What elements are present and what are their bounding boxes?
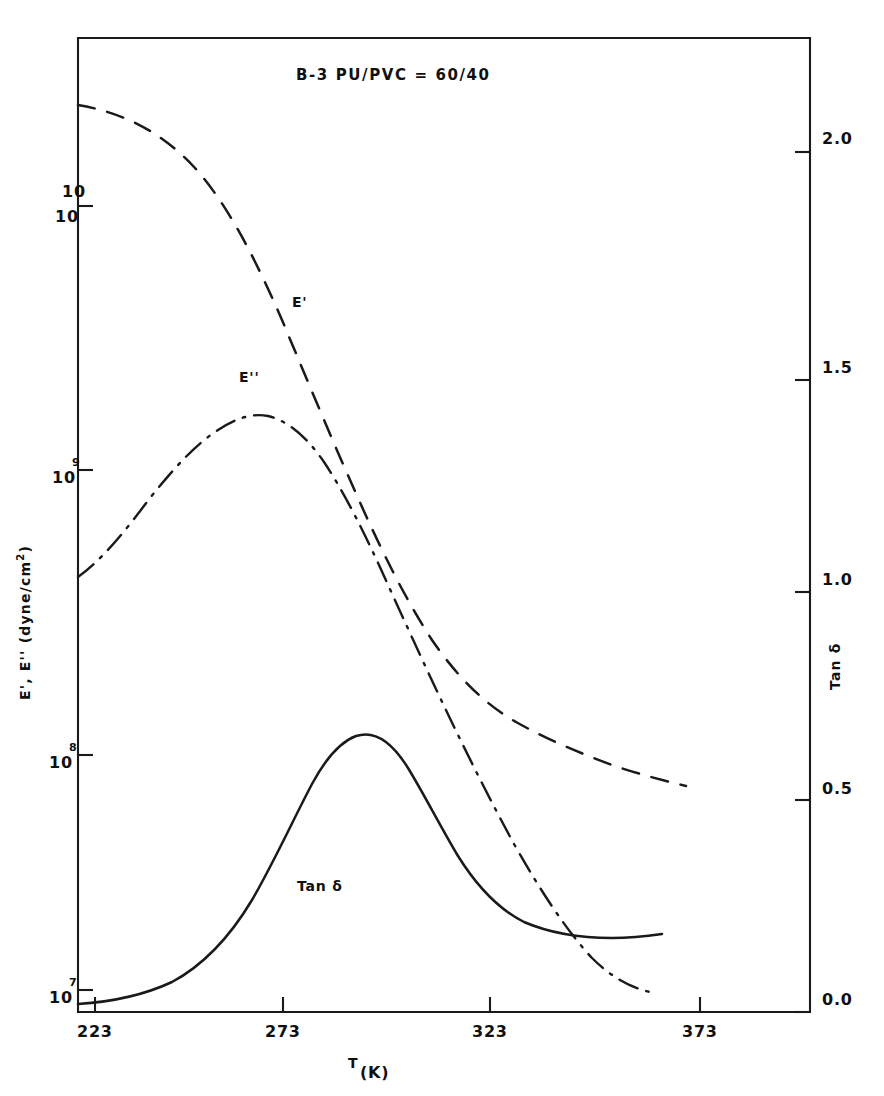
curve-e-prime: [78, 105, 686, 786]
figure-container: B-3 PU/PVC = 60/40 10 10 10 9 10 8 10: [0, 0, 884, 1096]
bottom-axis-title: T (K): [348, 1055, 389, 1082]
left-tick-mantissa-1e7: 10: [49, 988, 73, 1007]
bottom-axis-title-sub: (K): [360, 1063, 389, 1082]
left-axis-title-main: E', E'' (dyne/cm: [17, 561, 33, 700]
right-tick-label-2-0: 2.0: [822, 129, 853, 148]
left-tick-mantissa-1e10: 10: [55, 207, 79, 226]
right-tick-label-0-0: 0.0: [822, 990, 853, 1009]
bottom-axis-title-main: T: [348, 1055, 359, 1071]
left-tick-exponent-1e8: 8: [69, 741, 77, 754]
annotation-e-prime: E': [292, 294, 307, 310]
chart-title: B-3 PU/PVC = 60/40: [296, 66, 491, 84]
right-axis-tick-labels: 2.0 1.5 1.0 0.5 0.0: [822, 129, 853, 1009]
bottom-tick-label-323: 323: [472, 1022, 508, 1041]
right-tick-label-0-5: 0.5: [822, 779, 853, 798]
bottom-axis-ticks: [95, 997, 700, 1012]
left-axis-tick-labels: 10 10 10 9 10 8 10 7: [49, 182, 86, 1007]
bottom-tick-label-273: 273: [265, 1022, 301, 1041]
curve-e-double-prime: [78, 415, 650, 992]
right-axis-ticks: [795, 152, 810, 1012]
left-tick-exponent-1e9: 9: [72, 456, 80, 469]
left-tick-mantissa-1e9: 10: [52, 468, 76, 487]
left-tick-label-1e7: 10 7: [49, 976, 77, 1007]
left-tick-exponent-1e7: 7: [69, 976, 77, 989]
left-axis-title-text: E', E'' (dyne/cm2): [15, 545, 33, 700]
bottom-axis-tick-labels: 223 273 323 373: [77, 1022, 718, 1041]
left-tick-mantissa-1e8: 10: [49, 753, 73, 772]
right-axis-title: Tan δ: [827, 642, 843, 690]
left-tick-exponent-1e10: 10: [62, 182, 86, 201]
left-axis-title-tail: ): [17, 545, 33, 553]
bottom-tick-label-373: 373: [682, 1022, 718, 1041]
left-tick-label-1e8: 10 8: [49, 741, 77, 772]
left-axis-ticks: [78, 206, 93, 990]
plot-frame: [78, 38, 810, 1012]
right-tick-label-1-0: 1.0: [822, 570, 853, 589]
left-axis-title: E', E'' (dyne/cm2): [15, 545, 33, 700]
left-axis-title-sup: 2: [15, 553, 26, 561]
annotation-tan-delta: Tan δ: [297, 878, 343, 894]
right-tick-label-1-5: 1.5: [822, 358, 853, 377]
right-axis-title-text: Tan δ: [827, 642, 843, 690]
left-tick-label-1e10: 10 10: [55, 182, 86, 226]
annotation-e-double-prime: E'': [239, 369, 260, 385]
left-tick-label-1e9: 10 9: [52, 456, 80, 487]
dynamic-mechanical-spectrum-chart: B-3 PU/PVC = 60/40 10 10 10 9 10 8 10: [0, 0, 884, 1096]
curve-tan-delta: [78, 734, 662, 1004]
bottom-tick-label-223: 223: [77, 1022, 113, 1041]
